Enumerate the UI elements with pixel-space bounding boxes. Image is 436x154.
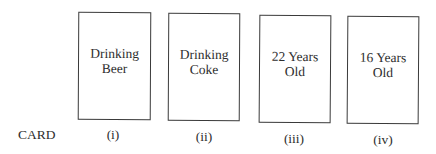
card-text: 22 Years Old <box>272 49 319 79</box>
card-text: Drinking Coke <box>180 47 229 77</box>
card-numeral-iii: (iii) <box>284 131 304 147</box>
card-text: 16 Years Old <box>360 50 407 80</box>
card-numeral-ii: (ii) <box>196 129 213 145</box>
card-drinking-coke: Drinking Coke <box>168 13 241 121</box>
card-22-years-old: 22 Years Old <box>259 15 332 124</box>
card-text: Drinking Beer <box>90 46 139 76</box>
card-16-years-old: 16 Years Old <box>347 16 420 125</box>
card-row-label: CARD <box>18 127 56 143</box>
card-numeral-iv: (iv) <box>373 132 393 148</box>
card-numeral-i: (i) <box>107 127 120 143</box>
card-drinking-beer: Drinking Beer <box>78 12 152 120</box>
